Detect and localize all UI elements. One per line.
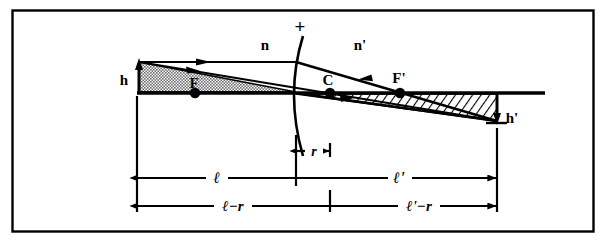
ray-diagram-canvas: h h' n n' + F C F' r ℓ ℓ' ℓ−r ℓ'−r <box>0 0 611 244</box>
refractive-index-right-label: n' <box>354 37 367 53</box>
refractive-index-left-label: n <box>261 37 270 53</box>
sign-convention-plus-label: + <box>295 16 306 37</box>
object-minus-radius-label: ℓ−r <box>222 198 243 214</box>
object-height-label: h <box>120 72 129 88</box>
back-focal-point-dot <box>395 88 405 98</box>
radius-label: r <box>311 144 317 159</box>
image-height-label: h' <box>506 110 519 126</box>
center-of-curvature-label: C <box>323 72 334 88</box>
image-minus-radius-label: ℓ'−r <box>406 198 432 214</box>
image-distance-label: ℓ' <box>392 169 405 186</box>
center-of-curvature-dot <box>325 88 335 98</box>
front-focal-point-label: F <box>190 76 199 91</box>
back-focal-point-label: F' <box>392 70 405 86</box>
optics-figure: h h' n n' + F C F' r ℓ ℓ' ℓ−r ℓ'−r <box>0 0 611 244</box>
object-distance-label: ℓ <box>213 169 221 186</box>
